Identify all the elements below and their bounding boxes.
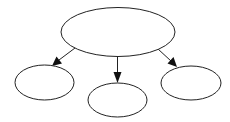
node-root[interactable] [61,8,175,57]
node-right[interactable] [161,66,221,100]
node-left[interactable] [15,65,74,100]
edge-line [158,49,171,61]
arrowhead-icon [114,72,122,83]
right-child-ellipse[interactable] [161,66,221,100]
node-middle[interactable] [88,83,147,117]
root-ellipse[interactable] [61,8,175,57]
edge-root-to-left [52,48,75,66]
edge-line [59,48,75,60]
middle-child-ellipse[interactable] [88,83,147,117]
edge-root-to-middle [114,57,122,84]
left-child-ellipse[interactable] [15,65,74,100]
arrowhead-icon [52,57,62,67]
edge-root-to-right [158,49,177,67]
tree-diagram [0,0,230,122]
